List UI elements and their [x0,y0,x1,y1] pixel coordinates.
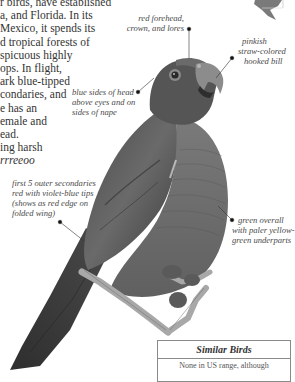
description-line: ops. In flight, [0,62,160,75]
similar-birds-text: None in US range, although [158,359,290,371]
annotation-bill: pinkish straw-colored hooked bill [238,36,286,66]
range-map-bird-icon [254,0,283,20]
description-line: r birds, have established [0,0,160,9]
description-line: ing harsh [0,141,160,154]
annotation-secondaries: first 5 outer secondaries red with viole… [12,178,96,218]
call-text: rrreeoo [0,154,160,167]
description-line: d tropical forests of [0,36,160,49]
annotation-underparts: green overall with paler yellow- green u… [236,215,295,245]
similar-birds-box: Similar Birds None in US range, although [157,340,291,382]
description-line: ead. [0,128,160,141]
description-line: spicuous highly [0,49,160,62]
similar-birds-heading: Similar Birds [158,341,290,359]
annotation-head-sides: blue sides of head above eyes and on sid… [72,87,135,117]
annotation-forehead: red forehead, crown, and lores [127,13,184,33]
